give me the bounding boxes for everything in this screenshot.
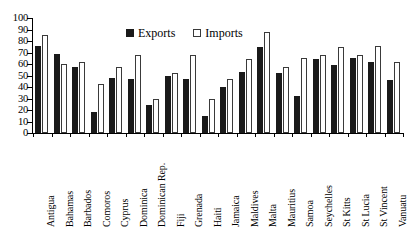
- chart-legend: ExportsImports: [126, 27, 243, 39]
- x-tick-mark: [329, 133, 330, 137]
- bar-imports: [153, 99, 159, 134]
- y-tick-mark: [27, 41, 32, 42]
- x-tick-mark: [52, 133, 53, 137]
- x-tick-mark: [126, 133, 127, 137]
- bar-group: [33, 18, 52, 133]
- bar-imports: [116, 67, 122, 133]
- x-tick-mark: [237, 133, 238, 137]
- x-tick-mark: [181, 133, 182, 137]
- legend-label: Exports: [138, 27, 175, 39]
- x-tick-label: Samoa: [305, 200, 315, 227]
- x-tick-mark: [366, 133, 367, 137]
- bar-exports: [72, 67, 78, 133]
- x-tick-mark: [292, 133, 293, 137]
- y-tick-mark: [27, 122, 32, 123]
- y-tick-mark: [27, 76, 32, 77]
- x-tick-label: Comoros: [102, 191, 112, 227]
- bar-imports: [135, 55, 141, 133]
- x-tick-label: St Kitts: [342, 198, 352, 228]
- bar-exports: [109, 78, 115, 133]
- filled-square-icon: [126, 29, 134, 37]
- bar-imports: [227, 79, 233, 133]
- bar-exports: [313, 59, 319, 133]
- bar-group: [107, 18, 126, 133]
- x-tick-mark: [70, 133, 71, 137]
- bar-exports: [91, 112, 97, 133]
- x-tick-mark: [200, 133, 201, 137]
- bar-exports: [350, 58, 356, 133]
- bar-group: [70, 18, 89, 133]
- bar-exports: [54, 54, 60, 133]
- bar-imports: [394, 62, 400, 133]
- x-tick-mark: [107, 133, 108, 137]
- bar-group: [89, 18, 108, 133]
- y-tick-mark: [27, 30, 32, 31]
- bar-imports: [98, 84, 104, 133]
- bar-imports: [61, 64, 67, 133]
- x-tick-mark: [385, 133, 386, 137]
- bar-imports: [283, 67, 289, 133]
- x-tick-label: Barbados: [83, 190, 93, 227]
- y-tick-mark: [27, 53, 32, 54]
- x-tick-label: Mauritius: [287, 189, 297, 227]
- x-tick-label: Antigua: [46, 195, 56, 227]
- bar-exports: [331, 65, 337, 133]
- bar-group: [274, 18, 293, 133]
- bar-imports: [301, 58, 307, 133]
- bar-group: [292, 18, 311, 133]
- bar-exports: [387, 80, 393, 133]
- hollow-square-icon: [193, 29, 201, 37]
- bar-group: [52, 18, 71, 133]
- x-tick-mark: [89, 133, 90, 137]
- y-tick-mark: [27, 87, 32, 88]
- bar-group: [255, 18, 274, 133]
- x-tick-label: Malta: [268, 204, 278, 227]
- bar-group: [366, 18, 385, 133]
- x-tick-label: Grenada: [194, 194, 204, 227]
- bar-exports: [146, 105, 152, 133]
- y-tick-mark: [27, 110, 32, 111]
- bar-exports: [202, 116, 208, 133]
- x-tick-label: Dominica: [139, 188, 149, 227]
- x-tick-label: St Lucia: [361, 194, 371, 227]
- bar-group: [348, 18, 367, 133]
- legend-label: Imports: [205, 27, 242, 39]
- bar-imports: [209, 99, 215, 134]
- bar-exports: [128, 79, 134, 133]
- bar-exports: [276, 73, 282, 133]
- x-tick-label: St Vincent: [379, 186, 389, 227]
- y-tick-label: 100: [13, 13, 28, 23]
- y-tick-mark: [27, 18, 32, 19]
- x-tick-mark: [163, 133, 164, 137]
- x-tick-mark: [144, 133, 145, 137]
- y-tick-mark: [27, 133, 32, 134]
- bar-group: [329, 18, 348, 133]
- bar-exports: [294, 96, 300, 133]
- bar-imports: [375, 46, 381, 133]
- legend-item-exports[interactable]: Exports: [126, 27, 175, 39]
- bar-imports: [79, 62, 85, 133]
- x-tick-label: Maldives: [250, 191, 260, 227]
- x-tick-label: Cyprus: [120, 199, 130, 227]
- bar-imports: [172, 73, 178, 133]
- bar-exports: [183, 79, 189, 133]
- x-axis: AntiguaBahamasBarbadosComorosCyprusDomin…: [33, 139, 405, 231]
- y-tick-mark: [27, 64, 32, 65]
- y-tick-mark: [27, 99, 32, 100]
- bar-exports: [35, 46, 41, 133]
- bar-exports: [257, 47, 263, 133]
- x-tick-mark: [255, 133, 256, 137]
- bar-imports: [264, 32, 270, 133]
- x-tick-label: Dominican Rep.: [157, 163, 167, 227]
- legend-item-imports[interactable]: Imports: [193, 27, 242, 39]
- bar-imports: [320, 55, 326, 133]
- bar-imports: [338, 47, 344, 133]
- bar-group: [311, 18, 330, 133]
- y-axis: 0102030405060708090100: [0, 0, 30, 232]
- x-tick-mark: [311, 133, 312, 137]
- x-tick-label: Fiji: [176, 214, 186, 228]
- bar-chart: 0102030405060708090100 AntiguaBahamasBar…: [0, 0, 408, 232]
- bar-imports: [246, 59, 252, 133]
- bar-imports: [357, 55, 363, 133]
- x-tick-label: Seychelles: [324, 185, 334, 227]
